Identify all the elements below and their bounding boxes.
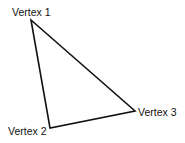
vertex-1-label: Vertex 1 [12,6,51,18]
triangle-diagram: Vertex 1 Vertex 2 Vertex 3 [0,0,185,143]
triangle [31,20,135,128]
vertex-2-label: Vertex 2 [8,125,47,137]
vertex-3-label: Vertex 3 [138,106,177,118]
